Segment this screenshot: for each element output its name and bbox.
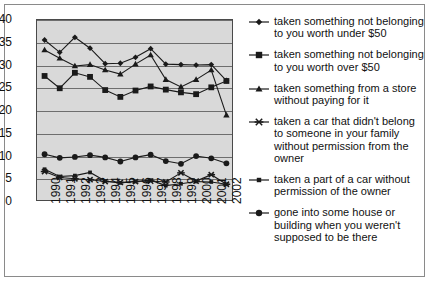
legend-marker-square-icon <box>248 48 270 62</box>
series-marker <box>163 87 169 93</box>
legend-label: taken a car that didn't belong to someon… <box>274 115 424 164</box>
series-marker <box>41 47 47 53</box>
series-marker <box>178 62 184 68</box>
series-marker <box>57 155 63 161</box>
chart-figure-frame: 0510152025303540 19901991199219931994199… <box>4 4 425 277</box>
chart-area: 0510152025303540 19901991199219931994199… <box>5 5 245 278</box>
x-axis-tick-label: 1994 <box>109 177 123 204</box>
series-marker <box>208 84 214 90</box>
legend-item[interactable]: taken a car that didn't belong to someon… <box>248 115 424 164</box>
x-axis-tick-label: 1991 <box>64 177 78 204</box>
x-axis-tick-label: 1996 <box>140 177 154 204</box>
series-marker <box>148 84 154 90</box>
series-marker <box>132 61 138 67</box>
series-marker <box>223 112 229 118</box>
y-axis-tick-label: 10 <box>0 150 12 162</box>
series-marker <box>224 78 230 84</box>
x-axis-tick-label: 2002 <box>230 177 244 204</box>
series-marker <box>133 155 139 161</box>
series-marker <box>177 170 185 175</box>
y-axis-tick-label: 35 <box>0 36 12 48</box>
series-marker <box>193 91 199 97</box>
legend-marker-diamond-icon <box>248 15 270 29</box>
series-marker <box>163 158 169 164</box>
series-marker <box>208 155 214 161</box>
series-marker <box>193 76 199 82</box>
series-marker <box>148 152 154 158</box>
series-marker <box>102 87 108 93</box>
series-marker <box>193 62 199 68</box>
series-marker <box>178 89 184 95</box>
legend-label: taken something not belonging to you wor… <box>274 15 424 39</box>
x-axis-tick-label: 1992 <box>79 177 93 204</box>
data-series <box>42 151 230 166</box>
legend-label: taken a part of a car without permission… <box>274 173 424 197</box>
x-axis-tick-label: 2001 <box>215 177 229 204</box>
series-marker <box>117 94 123 100</box>
series-marker <box>147 52 153 58</box>
y-axis-tick-label: 40 <box>0 13 12 25</box>
legend-item[interactable]: taken something not belonging to you wor… <box>248 15 424 39</box>
series-marker <box>117 159 123 165</box>
series-marker <box>43 167 47 171</box>
legend-marker-square-small-icon <box>248 173 270 187</box>
legend-item[interactable]: taken a part of a car without permission… <box>248 173 424 197</box>
series-marker <box>87 74 93 80</box>
series-marker <box>102 155 108 161</box>
y-axis-tick-label: 0 <box>0 195 12 207</box>
data-series <box>42 70 230 100</box>
series-marker <box>42 73 48 79</box>
series-marker <box>178 161 184 167</box>
y-axis-tick-label: 20 <box>0 104 12 116</box>
y-axis-tick-label: 15 <box>0 127 12 139</box>
series-marker <box>88 171 92 175</box>
series-marker <box>57 85 63 91</box>
y-axis-tick-label: 30 <box>0 59 12 71</box>
series-marker <box>133 54 139 60</box>
x-axis-tick-label: 1990 <box>49 177 63 204</box>
series-marker <box>133 88 139 94</box>
legend-marker-triangle-icon <box>248 82 270 96</box>
legend: taken something not belonging to you wor… <box>248 15 424 252</box>
legend-item[interactable]: taken something not belonging to you wor… <box>248 48 424 72</box>
series-marker <box>117 60 123 66</box>
legend-marker-cross-icon <box>248 115 270 129</box>
legend-item[interactable]: gone into some house or building when yo… <box>248 206 424 243</box>
legend-label: taken something from a store without pay… <box>274 82 424 106</box>
x-axis-tick-label: 1993 <box>94 177 108 204</box>
series-marker <box>72 154 78 160</box>
x-axis-tick-label: 2000 <box>200 177 214 204</box>
series-layer <box>37 20 234 202</box>
series-marker <box>193 153 199 159</box>
series-marker <box>57 55 63 61</box>
legend-label: gone into some house or building when yo… <box>274 206 424 243</box>
x-axis-tick-label: 1995 <box>124 177 138 204</box>
series-marker <box>42 151 48 157</box>
x-axis-tick-label: 1999 <box>185 177 199 204</box>
x-axis: 1990199119921993199419951996199719981999… <box>36 202 236 278</box>
series-marker <box>87 152 93 158</box>
series-marker <box>163 76 169 82</box>
y-axis-tick-label: 5 <box>0 172 12 184</box>
x-axis-tick-label: 1997 <box>155 177 169 204</box>
y-axis-tick-label: 25 <box>0 81 12 93</box>
x-axis-tick-label: 1998 <box>170 177 184 204</box>
legend-label: taken something not belonging to you wor… <box>274 48 424 72</box>
series-marker <box>224 160 230 166</box>
series-marker <box>72 70 78 76</box>
legend-item[interactable]: taken something from a store without pay… <box>248 82 424 106</box>
legend-marker-circle-icon <box>248 206 270 220</box>
series-marker <box>87 61 93 67</box>
plot-area <box>36 19 233 201</box>
